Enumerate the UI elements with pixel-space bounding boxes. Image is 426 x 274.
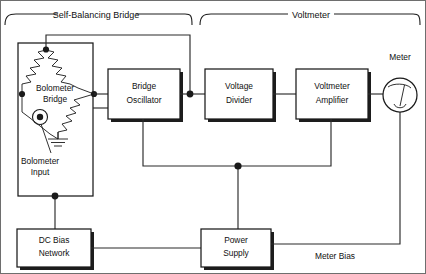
label-meter: Meter bbox=[389, 52, 411, 62]
meter-gauge-circle bbox=[383, 78, 417, 112]
node-power-bus bbox=[234, 162, 241, 169]
node-bridge-top bbox=[43, 46, 49, 52]
bridge-oscillator-label-line2: Oscillator bbox=[127, 95, 162, 105]
node-bridge-left bbox=[19, 91, 25, 97]
brace-self-balancing-bridge: Self-Balancing Bridge bbox=[5, 10, 192, 26]
node-bolometer-bias-tap bbox=[52, 193, 59, 200]
wire-oscillator-to-power-bus bbox=[143, 119, 238, 166]
power-supply-label-line1: Power bbox=[224, 235, 248, 245]
label-bolometer-bridge-line1: Bolometer bbox=[36, 83, 74, 93]
voltmeter-amplifier-label-line1: Voltmeter bbox=[314, 81, 350, 91]
bolometer-input-node bbox=[37, 114, 43, 120]
block-diagram-figure: Self-Balancing Bridge Voltmeter bbox=[0, 0, 426, 274]
label-bolometer-bridge-line2: Bridge bbox=[43, 94, 68, 104]
meter-gauge: Meter bbox=[383, 52, 417, 112]
node-oscillator-output bbox=[187, 91, 194, 98]
voltage-divider-label-line1: Voltage bbox=[225, 81, 253, 91]
wire-meter-bias bbox=[271, 112, 400, 244]
bolometer-enclosure-box bbox=[18, 43, 93, 196]
brace-label-voltmeter: Voltmeter bbox=[292, 10, 330, 20]
block-voltmeter-amplifier[interactable]: Voltmeter Amplifier bbox=[296, 69, 371, 122]
power-supply-label-line2: Supply bbox=[223, 248, 249, 258]
block-bridge-oscillator[interactable]: Bridge Oscillator bbox=[108, 69, 183, 122]
label-meter-bias: Meter Bias bbox=[315, 251, 355, 261]
label-bolometer-input-line2: Input bbox=[31, 167, 50, 177]
brace-voltmeter: Voltmeter bbox=[200, 10, 420, 26]
dc-bias-network-label-line1: DC Bias bbox=[39, 235, 70, 245]
brace-label-self-balancing-bridge: Self-Balancing Bridge bbox=[53, 10, 140, 20]
voltage-divider-box[interactable] bbox=[205, 69, 273, 119]
block-power-supply[interactable]: Power Supply bbox=[201, 229, 274, 270]
bridge-oscillator-label-line1: Bridge bbox=[132, 81, 157, 91]
dc-bias-network-label-line2: Network bbox=[39, 248, 71, 258]
voltmeter-amplifier-label-line2: Amplifier bbox=[316, 95, 349, 105]
block-voltage-divider[interactable]: Voltage Divider bbox=[205, 69, 276, 122]
label-bolometer-input-line1: Bolometer bbox=[21, 156, 59, 166]
voltage-divider-label-line2: Divider bbox=[226, 95, 252, 105]
block-dc-bias-network[interactable]: DC Bias Network bbox=[17, 229, 94, 270]
bridge-oscillator-box[interactable] bbox=[108, 69, 180, 119]
voltmeter-amplifier-box[interactable] bbox=[296, 69, 368, 119]
wire-amplifier-to-power-bus bbox=[238, 119, 331, 166]
diagram-canvas: Self-Balancing Bridge Voltmeter bbox=[0, 0, 426, 274]
